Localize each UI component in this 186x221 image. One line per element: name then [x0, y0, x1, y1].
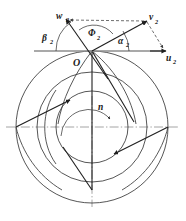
u2-label: u: [166, 53, 171, 63]
beta2-label: β: [41, 33, 47, 43]
phi2-arc: [79, 25, 113, 34]
alpha2-label: α: [118, 36, 124, 46]
u2-label-subscript: 2: [172, 58, 176, 65]
w2-vector-line: [66, 19, 108, 79]
phi2-label: Φ: [88, 28, 96, 38]
rotation-arrow-group: [61, 109, 110, 136]
w2-vector-group: [66, 19, 108, 79]
reference-axes: [6, 96, 180, 207]
velocity-triangle-diagram: n u 2 v 2 w 2 β 2: [0, 0, 186, 221]
v2-to-w2-dashed: [70, 20, 144, 21]
rotation-label: n: [98, 102, 103, 112]
rotation-arc: [61, 109, 110, 136]
figure-canvas: n u 2 v 2 w 2 β 2: [0, 0, 186, 221]
v2-to-u2-dashed: [147, 22, 163, 48]
chord-lower-left: [63, 147, 92, 190]
beta2-arc: [56, 22, 71, 51]
w2-label-subscript: 2: [65, 16, 69, 23]
w2-label: w: [56, 11, 63, 21]
v2-label-subscript: 2: [154, 18, 158, 25]
v2-label: v: [149, 12, 154, 22]
alpha2-label-subscript: 2: [125, 41, 129, 48]
phi2-label-subscript: 2: [96, 34, 100, 41]
beta2-label-subscript: 2: [49, 38, 53, 45]
vane-chords: [16, 51, 168, 190]
chord-left: [16, 100, 70, 127]
origin-label: O: [73, 57, 80, 68]
